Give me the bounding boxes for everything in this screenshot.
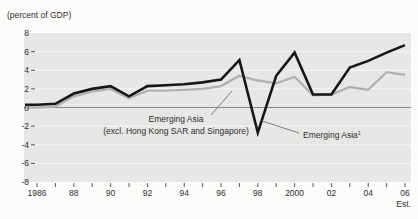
black-series-footnote-sup: 1	[358, 130, 361, 136]
y-tick-label: 8	[24, 28, 29, 38]
x-tick-label: 06	[400, 188, 410, 198]
x-tick-label: 04	[363, 188, 373, 198]
y-tick-label: 2	[24, 84, 29, 94]
y-tick-label: 6	[24, 47, 29, 57]
black-series-label: Emerging Asia1	[303, 130, 361, 140]
x-tick-label: 98	[253, 188, 263, 198]
y-tick-label: 4	[24, 65, 29, 75]
y-tick-label: -6	[21, 158, 29, 168]
x-tick-label: 92	[143, 188, 153, 198]
unit-label: (percent of GDP)	[7, 10, 71, 20]
y-tick-label: -2	[21, 121, 29, 131]
gray-series-label-line1: Emerging Asia	[149, 114, 204, 124]
y-tick-label: -8	[21, 177, 29, 187]
x-tick-label: 2000	[285, 188, 304, 198]
y-tick-label: 0	[24, 103, 29, 113]
x-tick-label: 88	[69, 188, 79, 198]
chart-panel: 1986889092949698200002040686420-2-4-6-8 …	[0, 0, 418, 219]
gray-series-label-line2: (excl. Hong Kong SAR and Singapore)	[103, 126, 249, 136]
black-series-label-text: Emerging Asia	[303, 130, 358, 140]
y-tick-label: -4	[21, 140, 29, 150]
x-tick-label: 94	[179, 188, 189, 198]
line-chart: 1986889092949698200002040686420-2-4-6-8 …	[0, 0, 418, 219]
x-axis-estimate-note: Est.	[396, 199, 411, 209]
x-tick-label: 1986	[28, 188, 47, 198]
x-tick-label: 02	[327, 188, 337, 198]
x-tick-label: 90	[106, 188, 116, 198]
x-tick-label: 96	[216, 188, 226, 198]
